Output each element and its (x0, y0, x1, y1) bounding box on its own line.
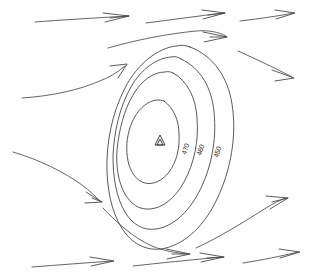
streamline-bottom-middle-arrow (133, 253, 224, 266)
contour-label-450: 450 (212, 145, 222, 158)
streamline-right-descending-arrow (238, 51, 294, 81)
streamline-left-midlevel-inflow (22, 64, 127, 98)
streamline-top-left-arrow (35, 13, 129, 22)
streamline-top-right-arrow (240, 10, 295, 21)
center-station-triangle-icon (155, 135, 165, 145)
diagram-canvas: 470 460 450 (0, 0, 313, 279)
contour-label-470-text: 470 (180, 142, 190, 155)
contour-label-460-text: 460 (195, 143, 205, 156)
streamline-bottom-right-arrow (243, 249, 300, 263)
streamline-contour-figure: 470 460 450 (0, 0, 313, 279)
streamline-upper-curved-inflow (108, 31, 227, 48)
contour-innermost-unlabeled (127, 100, 179, 184)
contour-label-450-text: 450 (212, 145, 222, 158)
contour-label-460: 460 (195, 143, 205, 156)
streamline-lower-right-outflow (196, 196, 288, 248)
streamline-bottom-left-arrow (32, 257, 114, 267)
streamline-lower-left-inflow (13, 152, 102, 203)
streamline-top-middle-arrow (146, 10, 225, 23)
streamline-lower-outflow-arrow (103, 208, 190, 259)
contour-label-470: 470 (180, 142, 190, 155)
